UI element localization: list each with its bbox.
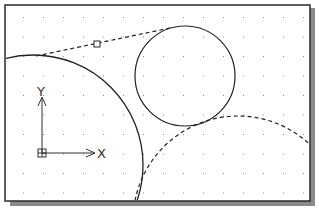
snap-marker-icon (94, 41, 100, 47)
ucs-y-label: Y (36, 84, 45, 99)
drawing-canvas[interactable]: X Y (0, 0, 319, 211)
ucs-x-label: X (97, 146, 106, 161)
